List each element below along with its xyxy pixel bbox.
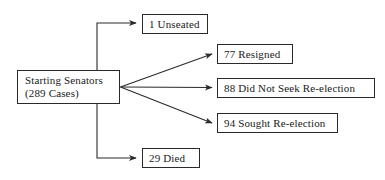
source-line-1: Starting Senators [18,74,108,87]
connector-resigned [121,54,213,87]
node-sought-reelection: 94 Sought Re-election [217,113,338,133]
node-resigned-label: 77 Resigned [218,48,285,61]
node-did-not-seek-reelection-label: 88 Did Not Seek Re-election [218,82,360,95]
flowchart-diagram: Starting Senators (289 Cases) 1 Unseated… [0,0,385,180]
node-died: 29 Died [142,148,200,168]
node-unseated: 1 Unseated [142,14,208,34]
connector-no-seek [121,87,213,88]
connector-died [97,104,136,158]
node-died-label: 29 Died [143,152,190,165]
node-unseated-label: 1 Unseated [143,18,205,31]
connector-unseated [97,23,136,70]
connector-sought [121,87,213,123]
node-resigned: 77 Resigned [217,44,293,64]
node-did-not-seek-reelection: 88 Did Not Seek Re-election [217,78,375,98]
source-line-2: (289 Cases) [18,87,84,100]
node-starting-senators: Starting Senators (289 Cases) [17,70,120,104]
node-sought-reelection-label: 94 Sought Re-election [218,117,331,130]
